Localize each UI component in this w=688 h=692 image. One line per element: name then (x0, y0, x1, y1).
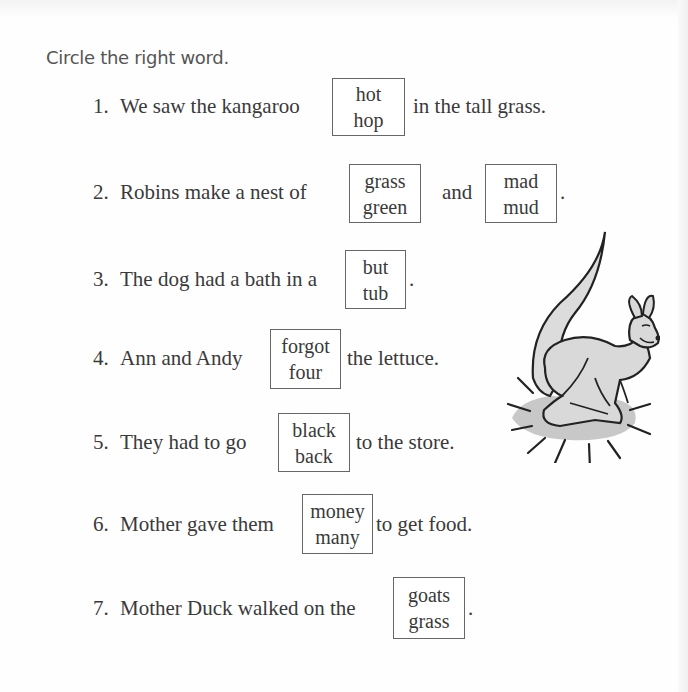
question-text-middle: and (442, 180, 472, 205)
word-choice-box-6[interactable]: money many (302, 494, 373, 554)
word-option[interactable]: money (310, 498, 364, 524)
word-choice-box-5[interactable]: black back (278, 413, 350, 472)
word-option[interactable]: back (295, 443, 333, 469)
question-number: 5. (93, 430, 120, 455)
question-text-before: We saw the kangaroo (120, 94, 300, 118)
question-number: 2. (93, 180, 120, 205)
question-7: 7.Mother Duck walked on the (93, 596, 356, 621)
question-number: 1. (93, 94, 120, 119)
word-option[interactable]: but (363, 254, 389, 280)
head-icon (629, 313, 658, 347)
page-edge (678, 0, 688, 692)
instructions-title: Circle the right word. (46, 47, 229, 68)
word-option[interactable]: mud (503, 194, 539, 220)
word-option[interactable]: grass (364, 168, 405, 194)
word-option[interactable]: hop (354, 107, 384, 133)
question-text-after: in the tall grass. (413, 94, 546, 119)
word-option[interactable]: black (292, 417, 335, 443)
word-option[interactable]: grass (408, 608, 449, 634)
word-option[interactable]: forgot (281, 333, 330, 359)
worksheet-page: Circle the right word. 1.We saw the kang… (0, 0, 688, 692)
kangaroo-illustration (500, 228, 660, 463)
word-option[interactable]: goats (408, 582, 450, 608)
question-text-after: the lettuce. (347, 346, 439, 371)
question-2: 2.Robins make a nest of (93, 180, 307, 205)
question-4: 4.Ann and Andy (93, 346, 243, 371)
word-option[interactable]: tub (363, 280, 389, 306)
question-text-after: . (409, 267, 414, 292)
question-number: 3. (93, 267, 120, 292)
word-option[interactable]: many (315, 524, 359, 550)
word-choice-box-4[interactable]: forgot four (270, 329, 341, 389)
question-5: 5.They had to go (93, 430, 247, 455)
question-text-after: to the store. (356, 430, 455, 455)
word-option[interactable]: green (363, 194, 407, 220)
question-text-after: . (468, 596, 473, 621)
question-1: 1.We saw the kangaroo (93, 94, 300, 119)
question-text-before: The dog had a bath in a (120, 267, 317, 291)
question-text-before: Mother Duck walked on the (120, 596, 356, 620)
question-3: 3.The dog had a bath in a (93, 267, 317, 292)
word-option[interactable]: hot (356, 81, 382, 107)
question-number: 7. (93, 596, 120, 621)
scan-shade (0, 0, 688, 18)
question-text-after: . (560, 180, 565, 205)
word-choice-box-1[interactable]: hot hop (332, 78, 405, 136)
question-number: 6. (93, 512, 120, 537)
question-6: 6.Mother gave them (93, 512, 274, 537)
question-text-before: Ann and Andy (120, 346, 243, 370)
word-choice-box-3[interactable]: but tub (345, 250, 406, 309)
question-number: 4. (93, 346, 120, 371)
word-choice-box-2a[interactable]: grass green (349, 164, 421, 223)
question-text-before: Robins make a nest of (120, 180, 307, 204)
word-option[interactable]: mad (504, 168, 538, 194)
word-choice-box-2b[interactable]: mad mud (485, 164, 557, 223)
word-choice-box-7[interactable]: goats grass (393, 577, 465, 639)
question-text-before: Mother gave them (120, 512, 274, 536)
word-option[interactable]: four (289, 359, 322, 385)
question-text-before: They had to go (120, 430, 247, 454)
question-text-after: to get food. (376, 512, 472, 537)
